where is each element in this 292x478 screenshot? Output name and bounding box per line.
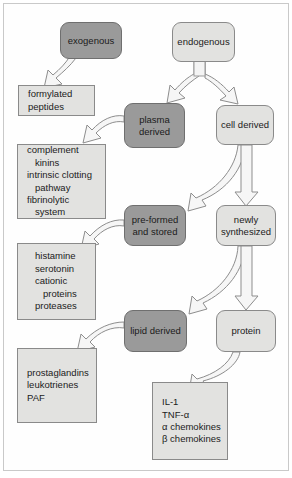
node-lipid-derived[interactable]: lipid derived: [124, 310, 187, 352]
list-line: prostaglandins: [18, 367, 96, 379]
node-pre-formed-line1: pre-formed: [132, 214, 178, 226]
node-newly-synthesized-line2: synthesized: [221, 226, 271, 238]
list-line: proteases: [18, 300, 95, 312]
list-line: kinins: [18, 157, 105, 169]
list-line: α chemokines: [153, 421, 227, 433]
list-line: intrinsic clotting: [18, 169, 105, 181]
diagram-canvas: .bar{ fill:#f4f4f4; stroke:#9b9b9b; stro…: [0, 0, 292, 478]
list-line: leukotrienes: [18, 379, 96, 391]
node-cell-derived[interactable]: cell derived: [216, 105, 274, 145]
node-pre-formed-and-stored[interactable]: pre-formed and stored: [124, 205, 186, 246]
node-lipid-derived-label: lipid derived: [130, 325, 181, 337]
list-line: system: [18, 206, 105, 218]
node-newly-synthesized[interactable]: newly synthesized: [216, 205, 276, 246]
prostaglandins-box[interactable]: prostaglandins leukotrienes PAF: [17, 348, 97, 423]
node-pre-formed-line2: and stored: [133, 226, 178, 238]
formylated-peptides-box[interactable]: formylated peptides: [18, 85, 95, 116]
list-line: proteins: [18, 288, 95, 300]
list-line: formylated: [19, 88, 94, 100]
list-line: IL-1: [153, 396, 227, 408]
node-endogenous[interactable]: endogenous: [172, 22, 235, 62]
node-exogenous[interactable]: exogenous: [60, 22, 122, 59]
histamine-serotonin-box[interactable]: histamine serotonin cationic proteins pr…: [17, 243, 96, 320]
node-newly-synthesized-line1: newly: [234, 214, 258, 226]
cytokines-box[interactable]: IL-1 TNF-α α chemokines β chemokines: [152, 382, 228, 460]
node-plasma-derived[interactable]: plasma derived: [124, 103, 185, 148]
list-line: pathway: [18, 182, 105, 194]
node-protein[interactable]: protein: [216, 310, 276, 352]
node-plasma-derived-line1: plasma: [139, 114, 170, 126]
node-cell-derived-label: cell derived: [221, 119, 269, 131]
list-line: serotonin: [18, 263, 95, 275]
list-line: fibrinolytic: [18, 194, 105, 206]
list-line: complement: [18, 144, 105, 156]
list-line: peptides: [19, 101, 94, 113]
complement-kinins-box[interactable]: complement kinins intrinsic clotting pat…: [17, 144, 106, 219]
node-plasma-derived-line2: derived: [139, 126, 170, 138]
node-endogenous-label: endogenous: [177, 36, 229, 48]
list-line: histamine: [18, 250, 95, 262]
node-exogenous-label: exogenous: [68, 35, 114, 47]
list-line: PAF: [18, 392, 96, 404]
list-line: cationic: [18, 275, 95, 287]
node-protein-label: protein: [231, 325, 260, 337]
list-line: TNF-α: [153, 409, 227, 421]
list-line: β chemokines: [153, 433, 227, 445]
